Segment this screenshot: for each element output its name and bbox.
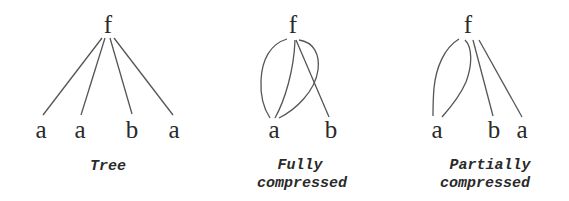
fully-compressed-leaf-b: b xyxy=(325,116,338,143)
tree-leaf-2: a xyxy=(74,116,85,143)
partially-compressed-caption-line-2: compressed xyxy=(440,175,531,192)
partially-compressed-edge-to-b xyxy=(473,40,493,116)
partially-compressed-leaf-a2: a xyxy=(516,116,527,143)
partially-compressed-edge-curve-left xyxy=(433,39,459,116)
tree-leaf-4: a xyxy=(168,116,179,143)
fully-compressed-caption-line-2: compressed xyxy=(257,175,348,192)
fully-compressed-leaf-a: a xyxy=(268,116,279,143)
partially-compressed-edge-to-a2 xyxy=(479,40,522,117)
partially-compressed-caption-line-1: Partially xyxy=(449,157,531,174)
fully-compressed-diagram: f a b Fully compressed xyxy=(257,11,348,192)
tree-diagram: f a a b a Tree xyxy=(35,11,179,175)
fully-compressed-edge-curve-left xyxy=(261,39,287,118)
diagram-canvas: f a a b a Tree f a b Fully compressed f … xyxy=(0,0,569,201)
fully-compressed-root-node: f xyxy=(289,11,298,38)
tree-edge-3 xyxy=(110,38,132,114)
partially-compressed-diagram: f a b a Partially compressed xyxy=(431,11,531,192)
fully-compressed-edge-middle xyxy=(275,40,295,118)
tree-leaf-1: a xyxy=(35,116,46,143)
tree-root-node: f xyxy=(104,11,113,38)
fully-compressed-edge-to-b xyxy=(296,40,329,117)
fully-compressed-caption-line-1: Fully xyxy=(277,157,323,174)
tree-edge-4 xyxy=(114,38,173,115)
partially-compressed-root-node: f xyxy=(464,11,473,38)
partially-compressed-leaf-a1: a xyxy=(431,116,442,143)
tree-caption: Tree xyxy=(90,158,126,175)
tree-leaf-3: b xyxy=(126,116,139,143)
partially-compressed-leaf-b: b xyxy=(488,116,501,143)
